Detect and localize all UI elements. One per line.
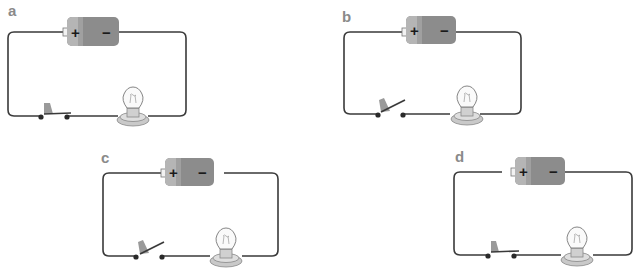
svg-text:+: + [169,164,178,181]
svg-text:+: + [519,163,528,180]
circuit-c-drawing: + − [90,140,290,275]
switch-open-icon [133,240,164,260]
light-bulb-icon [210,228,242,267]
circuit-panel-b: b + − [330,0,530,135]
circuit-panel-a: a + − [0,0,200,135]
circuit-b-drawing: + − [330,0,530,135]
light-bulb-icon [561,227,593,266]
circuit-a-drawing: + − [0,0,200,135]
circuit-panel-d: d + − [440,140,634,275]
svg-text:+: + [410,22,419,39]
switch-open-icon [375,98,405,118]
battery-icon: + − [161,158,214,186]
svg-text:−: − [549,163,558,180]
battery-icon: + − [511,157,565,185]
battery-icon: + − [402,16,456,44]
battery-icon: + − [63,17,119,46]
switch-closed-icon [485,241,519,259]
circuit-d-drawing: + − [440,140,634,275]
light-bulb-icon [117,87,149,126]
svg-text:−: − [102,24,111,41]
wire [344,32,521,114]
svg-text:−: − [198,164,207,181]
switch-closed-icon [38,103,71,120]
light-bulb-icon [451,86,483,125]
svg-text:+: + [71,24,80,41]
circuit-panel-c: c + − [90,140,290,275]
svg-text:−: − [440,22,449,39]
